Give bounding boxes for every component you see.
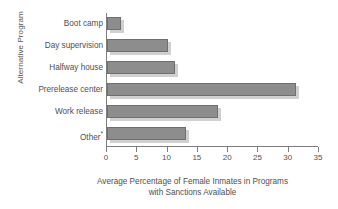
bar-rect	[107, 127, 186, 140]
x-tick-label-1: 0	[94, 153, 118, 162]
x-tick-mark-1	[106, 147, 107, 152]
x-tick-label-5: 20	[215, 153, 239, 162]
y-axis-label-5: Work release	[24, 107, 103, 116]
x-axis-ticks: 05101520253035	[106, 147, 326, 169]
x-tick-label-7: 30	[276, 153, 300, 162]
footnote-marker: *	[100, 130, 103, 137]
x-tick-mark-4	[197, 147, 198, 152]
x-axis-title: Average Percentage of Female Inmates in …	[55, 176, 330, 198]
bar-rect	[107, 105, 218, 118]
x-tick-mark-2	[136, 147, 137, 152]
x-tick-label-6: 25	[245, 153, 269, 162]
x-tick-mark-8	[318, 147, 319, 152]
bar-chart: Alternative Program Boot campDay supervi…	[0, 0, 338, 209]
x-tick-mark-5	[227, 147, 228, 152]
bar-rect	[107, 61, 175, 74]
x-tick-mark-7	[288, 147, 289, 152]
x-tick-label-2: 5	[124, 153, 148, 162]
x-tick-label-4: 15	[185, 153, 209, 162]
bar-rect	[107, 17, 121, 30]
y-axis-label-3: Halfway house	[24, 63, 103, 72]
bar-rect	[107, 83, 296, 96]
y-axis-label-6: Other*	[24, 129, 103, 142]
y-axis-tick-labels: Boot campDay supervisionHalfway housePre…	[24, 13, 103, 146]
y-axis-label-4: Prerelease center	[24, 85, 103, 94]
x-tick-mark-6	[257, 147, 258, 152]
bar-rect	[107, 39, 168, 52]
x-tick-label-3: 10	[155, 153, 179, 162]
x-tick-mark-3	[167, 147, 168, 152]
x-axis-title-line-1: Average Percentage of Female Inmates in …	[97, 177, 288, 186]
y-axis-label-2: Day supervision	[24, 41, 103, 50]
y-axis-label-1: Boot camp	[24, 19, 103, 28]
x-tick-label-8: 35	[306, 153, 330, 162]
plot-area	[106, 13, 318, 147]
x-axis-title-line-2: with Sanctions Available	[55, 187, 330, 198]
